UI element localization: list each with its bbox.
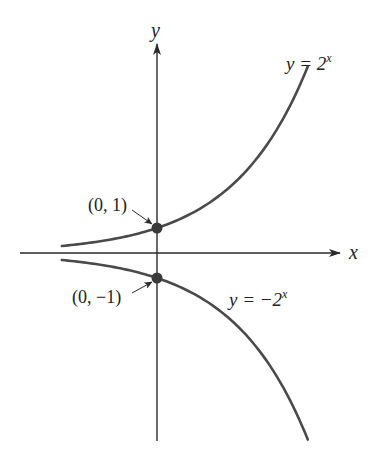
equation-label-top: y = 2x (286, 52, 332, 73)
point-0-1 (152, 223, 163, 234)
arrow-to-point-0-neg1 (132, 282, 152, 293)
eq-bottom-text: y = −2 (229, 289, 282, 310)
x-axis-label: x (349, 242, 358, 262)
equation-label-bottom: y = −2x (229, 288, 287, 309)
arrow-to-point-0-1 (132, 210, 152, 224)
point-0-neg1 (152, 273, 163, 284)
eq-bottom-exponent: x (282, 287, 287, 301)
eq-top-text: y = 2 (286, 53, 326, 74)
curve-y-equals-2-to-x (62, 66, 308, 246)
y-axis-label: y (151, 20, 160, 40)
eq-top-exponent: x (326, 51, 331, 65)
point-label-0-1: (0, 1) (88, 196, 127, 214)
point-label-0-neg1: (0, −1) (72, 288, 121, 306)
